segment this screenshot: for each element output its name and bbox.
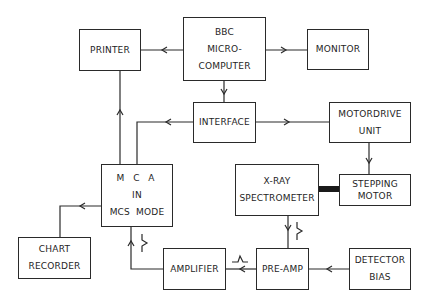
pulse-waveform-icon [232, 256, 248, 262]
bbc-microcomputer-block: BBC MICRO- COMPUTER [183, 17, 266, 81]
amplifier-label: AMPLIFIER [170, 261, 219, 278]
bbc-label-line2: MICRO- [207, 41, 242, 58]
bbc-label-line3: COMPUTER [198, 58, 250, 75]
printer-label: PRINTER [90, 42, 130, 59]
chart-label-line1: CHART [39, 241, 70, 258]
mca-label-line3: MCS MODE [110, 204, 165, 221]
stepping-label-line1: STEPPING [352, 178, 398, 190]
preamp-label: PRE-AMP [262, 261, 303, 278]
block-diagram: PRINTER BBC MICRO- COMPUTER MONITOR INTE… [0, 0, 427, 305]
xray-spectrometer-block: X-RAY SPECTROMETER [235, 164, 319, 216]
mca-label-line1: M C A [117, 170, 158, 187]
step-pulse-icon [142, 234, 147, 252]
bias-label-line1: DETECTOR [355, 252, 406, 269]
stepping-label-line2: MOTOR [358, 190, 393, 202]
preamp-block: PRE-AMP [256, 248, 309, 290]
amplifier-block: AMPLIFIER [163, 248, 226, 290]
monitor-block: MONITOR [307, 29, 369, 70]
spectrometer-label-line1: X-RAY [264, 173, 291, 190]
bias-label-line2: BIAS [369, 269, 391, 286]
chart-label-line2: RECORDER [28, 258, 80, 275]
interface-label: INTERFACE [199, 114, 250, 131]
mca-label-line2: IN [132, 187, 142, 204]
mca-block: M C A IN MCS MODE [101, 164, 173, 227]
chart-recorder-block: CHART RECORDER [18, 237, 91, 279]
motordrive-unit-block: MOTORDRIVE UNIT [329, 102, 411, 143]
detector-bias-block: DETECTOR BIAS [349, 248, 411, 290]
printer-block: PRINTER [79, 29, 141, 71]
interface-block: INTERFACE [193, 102, 256, 143]
shaft-coupling [319, 186, 339, 192]
stepping-motor-block: STEPPING MOTOR [339, 174, 411, 206]
monitor-label: MONITOR [316, 41, 360, 58]
bbc-label-line1: BBC [215, 24, 234, 41]
motordrive-label-line2: UNIT [359, 123, 381, 140]
step-pulse-icon [297, 222, 302, 240]
motordrive-label-line1: MOTORDRIVE [338, 106, 401, 123]
spectrometer-label-line2: SPECTROMETER [239, 190, 314, 207]
